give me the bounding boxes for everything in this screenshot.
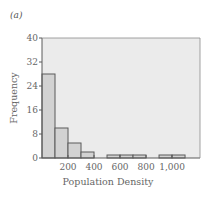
histogram-bar bbox=[42, 74, 55, 158]
y-axis-title: Frequency bbox=[8, 72, 19, 124]
y-axis-ticks: 0816243240 bbox=[27, 33, 42, 163]
histogram-bar bbox=[81, 152, 94, 158]
x-tick-label: 600 bbox=[111, 162, 128, 172]
y-tick-label: 32 bbox=[27, 57, 38, 67]
y-tick-label: 0 bbox=[32, 153, 38, 163]
y-tick-label: 24 bbox=[27, 81, 39, 91]
histogram-chart: 0816243240 2004006008001,000 Population … bbox=[0, 0, 208, 200]
x-axis-title: Population Density bbox=[63, 176, 154, 187]
y-tick-label: 40 bbox=[27, 33, 39, 43]
x-tick-label: 1,000 bbox=[159, 162, 185, 172]
y-tick-label: 16 bbox=[27, 105, 39, 115]
x-tick-label: 800 bbox=[137, 162, 154, 172]
x-tick-label: 200 bbox=[59, 162, 76, 172]
histogram-bar bbox=[68, 143, 81, 158]
histogram-bar bbox=[55, 128, 68, 158]
y-tick-label: 8 bbox=[32, 129, 38, 139]
x-tick-label: 400 bbox=[85, 162, 102, 172]
